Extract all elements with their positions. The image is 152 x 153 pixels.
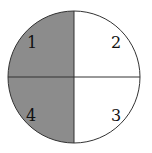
quadrant-label-3: 3 bbox=[111, 106, 121, 125]
quadrant-label-4: 4 bbox=[26, 106, 36, 125]
quadrant-label-2: 2 bbox=[111, 33, 121, 52]
quadrant-label-1: 1 bbox=[27, 33, 37, 52]
quadrant-circle-diagram: 1 2 3 4 bbox=[0, 0, 152, 153]
